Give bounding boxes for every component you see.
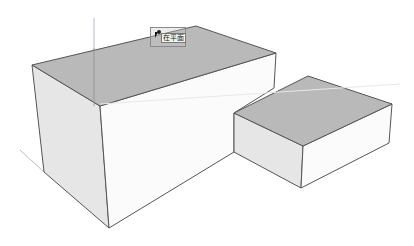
inference-tooltip: 在平面 (150, 27, 186, 47)
red-axis-line (20, 150, 44, 172)
cursor-arrow-icon (155, 32, 158, 38)
inference-label: 在平面 (161, 33, 186, 43)
3d-modeling-viewport[interactable]: 在平面 (0, 0, 414, 246)
scene-canvas[interactable] (0, 0, 414, 246)
